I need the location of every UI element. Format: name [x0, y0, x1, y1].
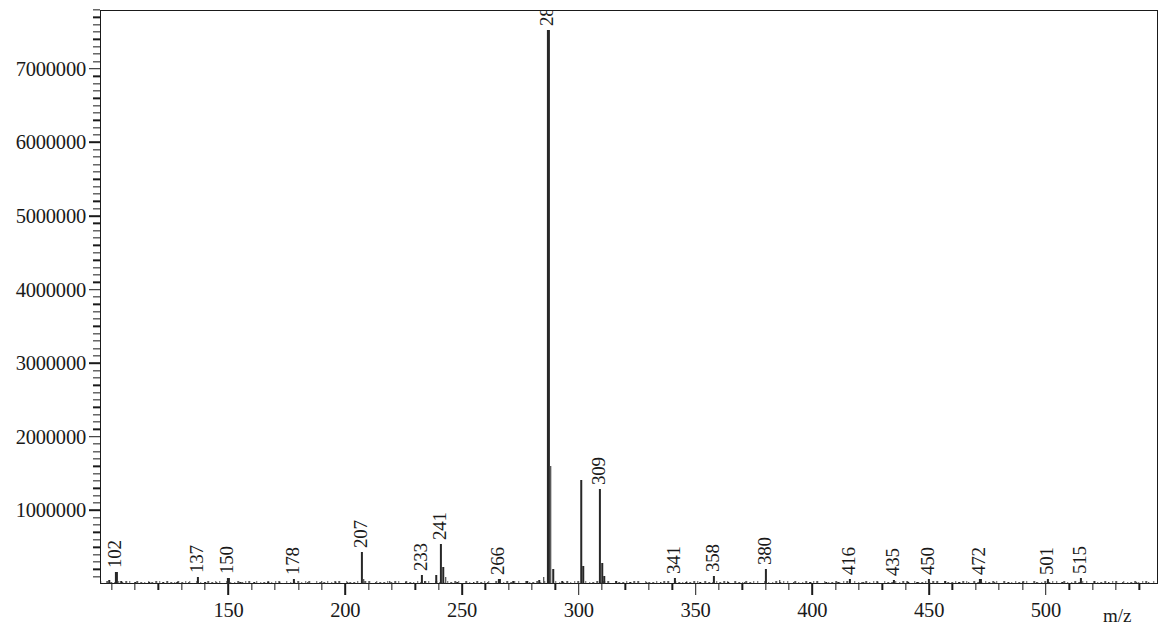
peak-label: 309 — [589, 457, 608, 485]
x-axis-minor-tick — [672, 584, 673, 590]
x-axis-minor-tick — [858, 584, 859, 590]
x-axis-minor-tick — [204, 584, 205, 590]
peak-label: 266 — [488, 547, 507, 575]
x-axis-minor-tick — [625, 584, 626, 590]
peak-label: 416 — [839, 547, 858, 575]
peak-label: 207 — [351, 521, 370, 549]
x-axis-minor-tick — [438, 584, 439, 590]
peak-label: 233 — [411, 544, 430, 572]
spectrum-peak — [826, 582, 828, 584]
x-axis-minor-tick — [1092, 584, 1093, 590]
spectrum-peak — [321, 581, 323, 584]
spectrum-peak — [547, 30, 549, 584]
x-axis-tick-label: 300 — [564, 599, 594, 622]
spectrum-peak — [552, 569, 554, 584]
x-axis-major-tick — [695, 584, 697, 595]
x-axis-minor-tick — [742, 584, 743, 590]
x-axis-minor-tick — [999, 584, 1000, 590]
x-axis-minor-tick — [181, 584, 182, 590]
x-axis-minor-tick — [508, 584, 509, 590]
x-axis-major-tick — [344, 584, 346, 595]
peak-label: 435 — [883, 548, 902, 576]
x-axis-minor-tick — [555, 584, 556, 590]
spectrum-peak — [580, 480, 582, 584]
spectrum-trace: 1021371501782072332412662873093413583804… — [100, 10, 1158, 584]
x-axis-minor-tick — [648, 584, 649, 590]
x-axis-minor-tick — [275, 584, 276, 590]
x-axis-minor-tick — [882, 584, 883, 590]
spectrum-peak — [527, 581, 529, 584]
peak-label: 450 — [918, 547, 937, 575]
x-axis-minor-tick — [788, 584, 789, 590]
x-axis-tick-label: 350 — [680, 599, 710, 622]
x-axis-tick-label: 250 — [447, 599, 477, 622]
spectrum-peak — [863, 582, 865, 584]
x-axis-minor-tick — [485, 584, 486, 590]
x-axis-tick-label: 500 — [1031, 599, 1061, 622]
spectrum-peak — [360, 552, 362, 584]
spectrum-peak — [134, 582, 136, 584]
x-axis-tick-label: 200 — [330, 599, 360, 622]
x-axis-minor-tick — [1115, 584, 1116, 590]
x-axis-minor-tick — [368, 584, 369, 590]
peak-label: 358 — [703, 545, 722, 573]
x-axis-minor-tick — [835, 584, 836, 590]
x-axis-major-tick — [461, 584, 463, 595]
x-axis-minor-tick — [415, 584, 416, 590]
peak-label: 241 — [430, 513, 449, 541]
x-axis-minor-tick — [765, 584, 766, 590]
x-axis-minor-tick — [601, 584, 602, 590]
peak-label: 102 — [105, 541, 124, 569]
x-axis-major-tick — [812, 584, 814, 595]
x-axis-minor-tick — [531, 584, 532, 590]
x-axis-minor-tick — [298, 584, 299, 590]
spectrum-peak — [583, 566, 585, 584]
x-axis-tick-label: 400 — [797, 599, 827, 622]
peak-label: 472 — [969, 548, 988, 576]
x-axis-title: m/z — [1103, 605, 1132, 627]
x-axis-minor-tick — [952, 584, 953, 590]
x-axis-minor-tick — [1139, 584, 1140, 590]
x-axis-major-tick — [928, 584, 930, 595]
x-axis-minor-tick — [1022, 584, 1023, 590]
spectrum-peak — [994, 582, 996, 584]
peak-label: 380 — [755, 537, 774, 565]
spectrum-peak — [599, 489, 601, 584]
x-axis-major-tick — [578, 584, 580, 595]
peak-label: 287 — [537, 10, 556, 26]
x-axis-minor-tick — [975, 584, 976, 590]
x-axis-major-tick — [1045, 584, 1047, 595]
peak-label: 178 — [283, 547, 302, 575]
peak-label: 515 — [1070, 547, 1089, 575]
peak-label: 341 — [664, 547, 683, 575]
x-axis-tick-label: 450 — [914, 599, 944, 622]
x-axis-minor-tick — [251, 584, 252, 590]
x-axis-minor-tick — [1069, 584, 1070, 590]
spectrum-peak — [440, 544, 442, 584]
mass-spectrum-figure: 1000000200000030000004000000500000060000… — [0, 0, 1168, 636]
x-axis-major-tick — [228, 584, 230, 595]
x-axis-minor-tick — [158, 584, 159, 590]
peak-label: 137 — [187, 546, 206, 574]
x-axis-tick-label: 150 — [213, 599, 243, 622]
x-axis-minor-tick — [391, 584, 392, 590]
spectrum-peak — [601, 563, 603, 584]
spectrum-peak — [550, 466, 552, 584]
peak-label: 501 — [1037, 547, 1056, 575]
peak-label: 150 — [217, 547, 236, 575]
x-axis-minor-tick — [718, 584, 719, 590]
x-axis-minor-tick — [905, 584, 906, 590]
x-axis-minor-tick — [134, 584, 135, 590]
x-axis-minor-tick — [321, 584, 322, 590]
x-axis-minor-tick — [111, 584, 112, 590]
